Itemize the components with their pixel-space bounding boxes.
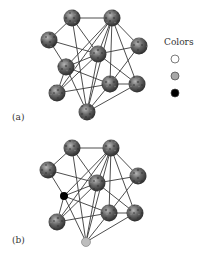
- globe-texture: [64, 140, 81, 157]
- globe-texture: [129, 76, 146, 93]
- globe-texture: [64, 10, 81, 27]
- globe-texture: [40, 162, 57, 179]
- graph-edge: [86, 148, 111, 242]
- globe-texture: [49, 85, 66, 102]
- black-node: [60, 192, 68, 200]
- graph-edge: [87, 18, 112, 112]
- panel-b-label: (b): [12, 235, 25, 245]
- globe-texture: [127, 205, 144, 222]
- globe-texture: [89, 175, 106, 192]
- globe-texture: [90, 46, 107, 63]
- legend-title: Colors: [164, 37, 194, 47]
- legend: [171, 55, 179, 97]
- legend-white-swatch: [171, 55, 179, 63]
- legend-black-swatch: [171, 89, 179, 97]
- globe-texture: [102, 76, 119, 93]
- globe-texture: [58, 59, 75, 76]
- globe-texture: [130, 168, 147, 185]
- globe-texture: [79, 104, 96, 121]
- globe-texture: [103, 140, 120, 157]
- globe-texture: [41, 32, 58, 49]
- globe-texture: [131, 38, 148, 55]
- globe-texture: [101, 205, 118, 222]
- globe-texture: [49, 214, 66, 231]
- globe-texture: [104, 10, 121, 27]
- legend-gray-swatch: [171, 72, 179, 80]
- panel-a-label: (a): [12, 112, 24, 122]
- gray-node: [82, 238, 91, 247]
